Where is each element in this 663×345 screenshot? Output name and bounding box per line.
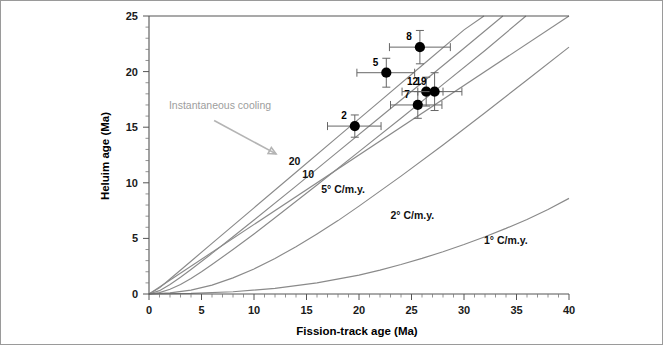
curve-cooling-rate-2	[149, 47, 569, 294]
curve-cooling-rate-5	[149, 16, 526, 294]
y-tick-label: 20	[126, 66, 138, 78]
curve-label-cooling-rate-20: 20	[289, 155, 301, 167]
x-tick-label: 5	[198, 304, 204, 316]
annotation-text: Instantaneous cooling	[169, 99, 271, 111]
y-axis-title: Heluim age (Ma)	[99, 112, 111, 200]
y-tick-label: 0	[132, 288, 138, 300]
data-marker	[381, 68, 391, 78]
y-tick-label: 5	[132, 232, 138, 244]
data-point-label: 7	[404, 89, 410, 100]
curve-label-cooling-rate-1: 1° C/m.y.	[484, 234, 528, 246]
curve-label-cooling-rate-5: 5° C/m.y.	[321, 183, 365, 195]
x-tick-label: 30	[458, 304, 470, 316]
x-tick-label: 20	[353, 304, 365, 316]
data-marker	[415, 42, 425, 52]
curve-label-cooling-rate-2: 2° C/m.y.	[391, 209, 435, 221]
curve-label-cooling-rate-10: 10	[302, 168, 314, 180]
scatter-plot: 20105° C/m.y.2° C/m.y.1° C/m.y. 05101520…	[1, 1, 663, 345]
data-point-label: 2	[341, 110, 347, 121]
x-tick-label: 0	[146, 304, 152, 316]
data-point-label: 8	[406, 31, 412, 42]
x-tick-label: 15	[300, 304, 312, 316]
y-tick-label: 10	[126, 177, 138, 189]
data-marker	[413, 100, 423, 110]
x-tick-label: 40	[563, 304, 575, 316]
data-point-label: 19	[415, 76, 427, 87]
y-tick-label: 15	[126, 121, 138, 133]
curve-cooling-rate-1	[149, 198, 569, 294]
x-tick-label: 10	[248, 304, 260, 316]
annotations-group: Instantaneous cooling	[169, 99, 276, 153]
data-point-8: 8	[389, 30, 450, 63]
annotation-arrowhead	[268, 147, 276, 153]
annotation-arrow	[214, 121, 276, 154]
data-point-label: 5	[373, 57, 379, 68]
x-axis-title: Fission-track age (Ma)	[296, 325, 418, 337]
data-marker	[350, 121, 360, 131]
y-tick-label: 25	[126, 10, 138, 22]
figure-container: 20105° C/m.y.2° C/m.y.1° C/m.y. 05101520…	[0, 0, 663, 345]
data-point-5: 5	[357, 57, 415, 87]
data-points-group: 25781219	[328, 30, 462, 137]
curve-cooling-rate-20	[149, 16, 484, 294]
cooling-curves: 20105° C/m.y.2° C/m.y.1° C/m.y.	[149, 16, 569, 294]
x-tick-label: 25	[405, 304, 417, 316]
curve-instantaneous-cooling	[149, 16, 569, 294]
x-tick-label: 35	[510, 304, 522, 316]
data-marker	[430, 87, 440, 97]
